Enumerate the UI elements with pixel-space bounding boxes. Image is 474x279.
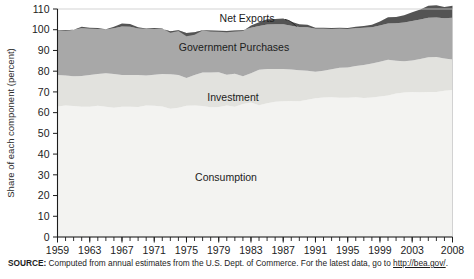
x-tick-label: 1959 [46,244,70,256]
x-tick-label: 1987 [272,244,296,256]
source-link[interactable]: http://bea.gov/ [393,258,446,268]
y-tick-label: 0 [44,231,50,243]
x-tick-label: 2003 [401,244,425,256]
label-consumption: Consumption [195,171,257,183]
source-label: SOURCE: [8,258,46,268]
x-tick-label: 1979 [207,244,231,256]
source-text-before: Computed from annual estimates from the … [49,258,391,268]
label-investment: Investment [207,91,258,103]
y-axis: 0102030405060708090100110 [32,3,58,243]
y-tick-label: 80 [38,65,50,77]
x-tick-label: 1963 [78,244,102,256]
y-tick-label: 110 [33,3,50,15]
y-axis-title-text: Share of each component (percent) [5,48,16,197]
y-tick-label: 10 [38,210,50,222]
x-tick-label: 1995 [336,244,360,256]
source-text-after: . [446,258,448,268]
y-tick-label: 90 [38,44,50,56]
x-tick-label: 1999 [368,244,392,256]
source-note: SOURCE: Computed from annual estimates f… [8,258,470,269]
x-tick-label: 1991 [304,244,328,256]
x-tick-label: 1971 [143,244,167,256]
chart-canvas: 0102030405060708090100110 19591963196719… [0,0,474,279]
gdp-components-area-chart: 0102030405060708090100110 19591963196719… [0,0,474,279]
x-tick-label: 1967 [110,244,134,256]
y-tick-label: 70 [38,86,50,98]
x-tick-label: 1983 [239,244,263,256]
label-net-exports: Net Exports [220,12,275,24]
x-axis: 1959196319671971197519791983198719911995… [46,237,465,256]
y-tick-label: 60 [38,106,50,118]
y-tick-label: 50 [38,127,50,139]
y-tick-label: 100 [32,23,50,35]
x-tick-label: 2008 [441,244,465,256]
y-axis-title: Share of each component (percent) [5,48,16,197]
area-consumption [58,90,453,237]
label-government-purchases: Government Purchases [179,41,289,53]
y-tick-label: 30 [38,169,50,181]
y-tick-label: 40 [38,148,50,160]
y-tick-label: 20 [38,189,50,201]
x-tick-label: 1975 [175,244,199,256]
